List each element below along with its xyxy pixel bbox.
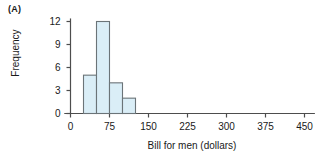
panel-label: (A) <box>8 5 21 14</box>
y-tick-label: 0 <box>39 109 61 119</box>
histogram-figure: (A) Frequency Bill for men (dollars) 036… <box>0 0 332 160</box>
y-tick-label: 9 <box>39 40 61 50</box>
histogram-bar <box>123 98 136 113</box>
y-tick-label: 6 <box>39 63 61 73</box>
x-tick-label: 300 <box>210 122 244 132</box>
x-tick-label: 375 <box>249 122 283 132</box>
x-tick-label: 450 <box>288 122 322 132</box>
x-tick-label: 0 <box>54 122 88 132</box>
y-tick-label: 3 <box>39 86 61 96</box>
x-tick-label: 150 <box>132 122 166 132</box>
histogram-bar <box>110 83 123 114</box>
y-tick-label: 12 <box>39 17 61 27</box>
x-axis-title: Bill for men (dollars) <box>70 141 314 151</box>
x-tick-label: 225 <box>171 122 205 132</box>
y-axis-title: Frequency <box>11 16 21 90</box>
x-tick-label: 75 <box>93 122 127 132</box>
histogram-bar <box>84 75 97 113</box>
histogram-bar <box>97 22 110 114</box>
